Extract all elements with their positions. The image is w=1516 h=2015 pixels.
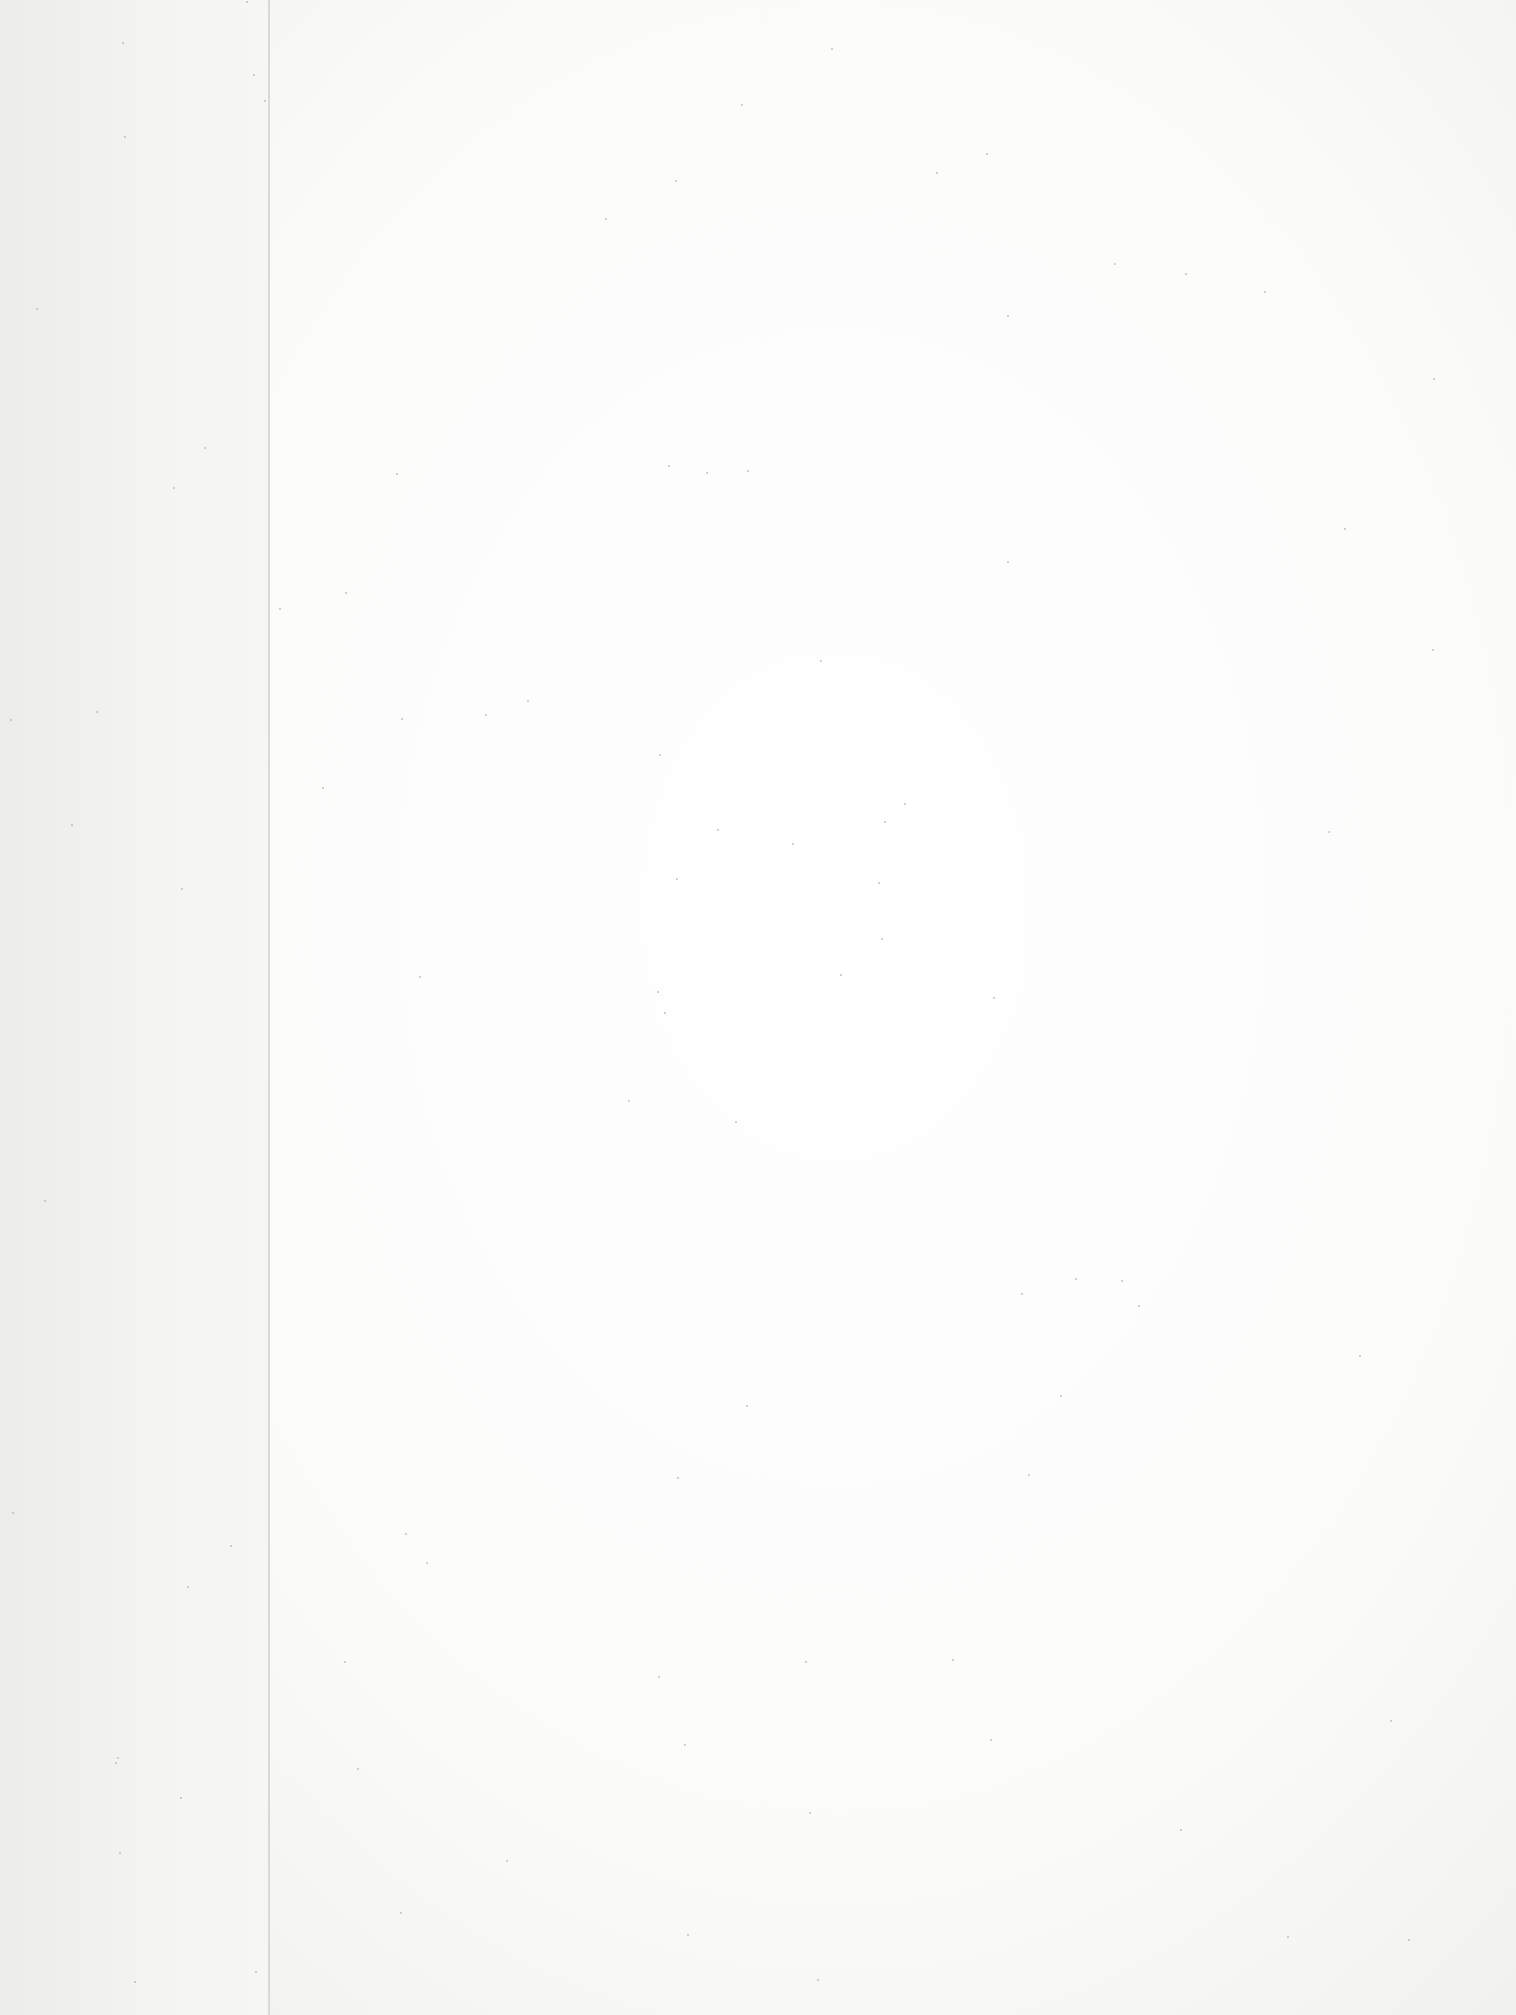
paper-speck	[345, 592, 347, 594]
paper-speck	[71, 824, 73, 826]
paper-speck	[1007, 315, 1009, 317]
paper-speck	[400, 1912, 402, 1914]
paper-speck	[10, 719, 12, 721]
paper-speck	[1028, 1474, 1030, 1476]
paper-speck	[1264, 291, 1266, 293]
paper-speck	[677, 1477, 679, 1479]
paper-speck	[246, 1, 248, 3]
paper-speck	[405, 1533, 407, 1535]
paper-speck	[1185, 273, 1187, 275]
paper-speck	[904, 803, 906, 805]
paper-speck	[485, 714, 487, 716]
paper-speck	[419, 976, 421, 978]
paper-speck	[122, 42, 124, 44]
paper-speck	[115, 1762, 117, 1764]
paper-speck	[96, 711, 98, 713]
paper-speck	[173, 487, 175, 489]
paper-speck	[792, 843, 794, 845]
paper-speck	[717, 829, 719, 831]
paper-speck	[658, 1676, 660, 1678]
paper-speck	[735, 1121, 737, 1123]
paper-speck	[344, 1661, 346, 1663]
paper-speck	[741, 104, 743, 106]
paper-speck	[117, 1757, 119, 1759]
paper-speck	[831, 48, 833, 50]
paper-speck	[1287, 1936, 1289, 1938]
paper-speck	[396, 473, 398, 475]
paper-speck	[401, 718, 403, 720]
paper-speck	[180, 1797, 182, 1799]
paper-speck	[684, 1744, 686, 1746]
paper-speck	[36, 308, 38, 310]
paper-speck	[119, 1852, 121, 1854]
paper-speck	[1021, 1293, 1023, 1295]
paper-speck	[657, 991, 659, 993]
paper-speck	[664, 1012, 666, 1014]
paper-speck	[1432, 649, 1434, 651]
paper-speck	[12, 1512, 14, 1514]
paper-speck	[659, 754, 661, 756]
paper-speck	[253, 74, 255, 76]
paper-speck	[1075, 1278, 1077, 1280]
paper-speck	[44, 1200, 46, 1202]
paper-speck	[628, 1100, 630, 1102]
paper-speck	[990, 1739, 992, 1741]
paper-speck	[506, 1860, 508, 1862]
paper-speck	[1180, 1829, 1182, 1831]
paper-speck	[204, 447, 206, 449]
paper-speck	[986, 153, 988, 155]
paper-speck	[124, 136, 126, 138]
paper-speck	[687, 1934, 689, 1936]
paper-speck	[878, 882, 880, 884]
paper-speck	[1007, 561, 1009, 563]
paper-speck	[134, 1981, 136, 1983]
paper-speck	[747, 470, 749, 472]
paper-speck	[357, 1768, 359, 1770]
paper-speck	[322, 787, 324, 789]
paper-speck	[1114, 263, 1116, 265]
paper-speck	[181, 888, 183, 890]
paper-speck	[675, 180, 677, 182]
paper-speck	[527, 700, 529, 702]
paper-speck	[881, 938, 883, 940]
paper-speck	[1060, 1395, 1062, 1397]
scanned-page	[0, 0, 1516, 2015]
paper-speck	[1328, 831, 1330, 833]
page-margin	[0, 0, 268, 2015]
paper-speck	[706, 472, 708, 474]
paper-speck	[820, 660, 822, 662]
paper-speck	[746, 1405, 748, 1407]
paper-speck	[605, 218, 607, 220]
paper-speck	[817, 1979, 819, 1981]
paper-speck	[264, 100, 266, 102]
paper-speck	[1433, 378, 1435, 380]
paper-speck	[255, 1971, 257, 1973]
paper-speck	[809, 1812, 811, 1814]
paper-speck	[230, 1545, 232, 1547]
paper-speck	[884, 821, 886, 823]
paper-speck	[187, 1586, 189, 1588]
paper-speck	[676, 878, 678, 880]
paper-speck	[426, 1562, 428, 1564]
paper-speck	[668, 465, 670, 467]
paper-speck	[993, 997, 995, 999]
paper-speck	[1344, 528, 1346, 530]
paper-speck	[805, 1661, 807, 1663]
paper-speck	[1121, 1280, 1123, 1282]
paper-speck	[1359, 1355, 1361, 1357]
paper-speck	[840, 974, 842, 976]
paper-speck	[936, 172, 938, 174]
paper-speck	[1138, 1305, 1140, 1307]
paper-speck	[952, 1659, 954, 1661]
paper-speck	[1408, 1939, 1410, 1941]
margin-rule-line	[268, 0, 270, 2015]
paper-speck	[279, 608, 281, 610]
paper-speck	[1390, 1720, 1392, 1722]
